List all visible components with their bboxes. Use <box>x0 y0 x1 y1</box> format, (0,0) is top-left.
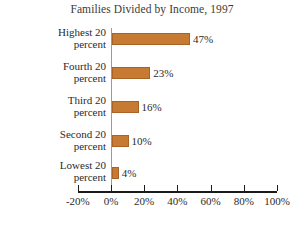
category-label-line1: Lowest 20 <box>60 159 106 171</box>
x-tick-1 <box>111 185 112 191</box>
x-tick-6 <box>277 185 278 191</box>
x-tick-label-6: 100% <box>264 195 290 207</box>
x-tick-label-2: 20% <box>134 195 154 207</box>
bar-value-second-20-percent: 10% <box>132 135 152 147</box>
bar-lowest-20-percent <box>112 167 119 179</box>
x-tick-0 <box>78 185 79 191</box>
category-label-line1: Second 20 <box>60 128 106 140</box>
x-tick-3 <box>177 185 178 191</box>
category-label-line2: percent <box>8 141 106 153</box>
bar-fourth-20-percent <box>112 67 150 79</box>
bar-second-20-percent <box>112 135 129 147</box>
x-tick-label-0: -20% <box>66 195 90 207</box>
x-tick-4 <box>211 185 212 191</box>
bar-value-fourth-20-percent: 23% <box>153 67 173 79</box>
category-label-line1: Third 20 <box>68 94 106 106</box>
x-tick-2 <box>144 185 145 191</box>
bar-value-lowest-20-percent: 4% <box>122 167 137 179</box>
x-tick-5 <box>244 185 245 191</box>
bar-value-highest-20-percent: 47% <box>193 33 213 45</box>
bar-highest-20-percent <box>112 33 190 45</box>
x-tick-label-5: 80% <box>234 195 254 207</box>
x-axis-line <box>78 191 277 193</box>
x-tick-label-1: 0% <box>104 195 119 207</box>
bar-third-20-percent <box>112 101 139 113</box>
category-label-lowest-20-percent: Lowest 20 percent <box>8 160 106 183</box>
category-label-fourth-20-percent: Fourth 20 percent <box>8 61 106 84</box>
category-label-second-20-percent: Second 20 percent <box>8 129 106 152</box>
x-tick-label-3: 40% <box>167 195 187 207</box>
category-label-line1: Fourth 20 <box>63 60 106 72</box>
category-label-line1: Highest 20 <box>58 26 106 38</box>
chart-container: Families Divided by Income, 1997 Highest… <box>0 0 304 226</box>
category-label-highest-20-percent: Highest 20 percent <box>8 27 106 50</box>
category-label-line2: percent <box>8 73 106 85</box>
plot-area: Highest 20 percent Fourth 20 percent Thi… <box>0 0 304 226</box>
category-label-line2: percent <box>8 172 106 184</box>
category-label-line2: percent <box>8 107 106 119</box>
category-label-third-20-percent: Third 20 percent <box>8 95 106 118</box>
bar-value-third-20-percent: 16% <box>142 101 162 113</box>
x-tick-label-4: 60% <box>201 195 221 207</box>
category-label-line2: percent <box>8 39 106 51</box>
